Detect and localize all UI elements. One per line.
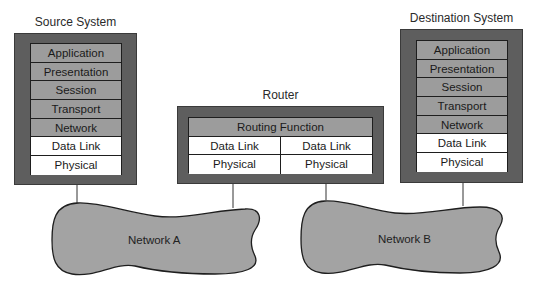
source-layer-network: Network — [31, 119, 121, 138]
destination-layer-data-link: Data Link — [417, 134, 507, 153]
source-layer-application: Application — [31, 44, 121, 63]
source-layer-transport: Transport — [31, 100, 121, 119]
source-layer-physical: Physical — [31, 156, 121, 175]
router-physical-row: Physical Physical — [189, 155, 372, 174]
destination-layer-session: Session — [417, 78, 507, 97]
router-routing-function-row: Routing Function — [189, 118, 372, 137]
router-left-physical: Physical — [189, 155, 280, 174]
router-layer-stack: Routing Function Data Link Data Link Phy… — [188, 117, 373, 173]
source-layer-data-link: Data Link — [31, 137, 121, 156]
network-b-label: Network B — [378, 233, 431, 245]
destination-layer-physical: Physical — [417, 153, 507, 172]
destination-layer-application: Application — [417, 41, 507, 60]
router-right-physical: Physical — [280, 155, 372, 174]
destination-layer-stack: Application Presentation Session Transpo… — [416, 40, 508, 172]
source-layer-presentation: Presentation — [31, 63, 121, 82]
router-title: Router — [177, 88, 384, 102]
router-left-data-link: Data Link — [189, 137, 280, 155]
source-layer-session: Session — [31, 81, 121, 100]
network-a-label: Network A — [128, 234, 180, 246]
source-system-title: Source System — [14, 15, 137, 29]
source-layer-stack: Application Presentation Session Transpo… — [30, 43, 122, 175]
router-routing-function: Routing Function — [189, 118, 372, 136]
router-data-link-row: Data Link Data Link — [189, 137, 372, 156]
destination-layer-transport: Transport — [417, 97, 507, 116]
destination-system-title: Destination System — [395, 11, 528, 25]
destination-layer-presentation: Presentation — [417, 60, 507, 79]
destination-layer-network: Network — [417, 116, 507, 135]
router-right-data-link: Data Link — [280, 137, 372, 155]
